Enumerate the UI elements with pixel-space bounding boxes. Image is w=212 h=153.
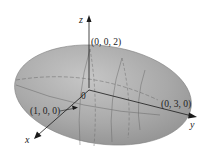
- point-label-0-0-2: (0, 0, 2): [91, 37, 121, 48]
- point-label-1-0-0: (1, 0, 0): [30, 106, 60, 117]
- point-label-0-3-0: (0, 3, 0): [161, 99, 191, 110]
- ellipsoid-diagram: z y x 0 (0, 0, 2) (1, 0, 0) (0, 3, 0): [0, 0, 212, 153]
- y-axis-arrowhead: [188, 113, 197, 119]
- z-axis-arrowhead: [87, 15, 92, 22]
- origin-label: 0: [81, 91, 86, 101]
- y-axis-label: y: [189, 119, 195, 130]
- z-axis-label: z: [78, 14, 83, 25]
- x-axis-label: x: [24, 134, 30, 145]
